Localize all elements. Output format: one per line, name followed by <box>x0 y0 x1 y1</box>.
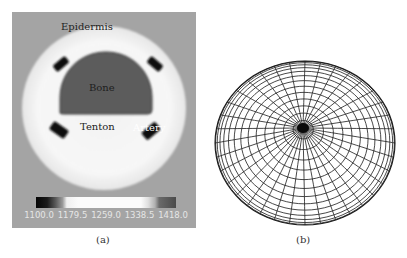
mesh-ring <box>217 63 392 223</box>
colorbar-tick-label: 1100.0 <box>24 210 54 220</box>
label-epidermis: Epidermis <box>61 21 113 32</box>
colorbar <box>36 197 176 208</box>
mesh-spoke <box>303 128 363 206</box>
caption-a: (a) <box>96 234 110 245</box>
label-tendon: Tenton <box>80 121 115 132</box>
colorbar-tick-label: 1259.0 <box>91 210 121 220</box>
colorbar-tick-label: 1418.0 <box>158 210 188 220</box>
mesh-spoke <box>303 128 394 129</box>
label-artery: Artery <box>132 122 166 133</box>
mesh-hub <box>297 123 309 133</box>
mesh-spoke <box>303 62 321 128</box>
mesh-spoke <box>227 102 303 128</box>
mesh-spoke <box>303 80 363 128</box>
mesh-spoke <box>216 128 303 129</box>
colorbar-tick-label: 1338.5 <box>125 210 155 220</box>
figure-b-mesh <box>215 61 395 225</box>
mesh-spoke <box>220 128 303 171</box>
mesh-spoke <box>215 128 303 143</box>
mesh-spoke <box>274 128 303 220</box>
label-bone: Bone <box>89 82 115 93</box>
colorbar-tick-label: 1179.5 <box>58 210 88 220</box>
caption-b: (b) <box>296 234 310 245</box>
